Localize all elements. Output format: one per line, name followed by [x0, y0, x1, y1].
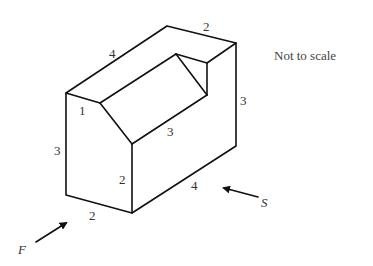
- block-edges: [66, 26, 236, 213]
- dim-notch-slope: 1: [79, 103, 86, 118]
- dim-top-width: 2: [203, 19, 210, 34]
- not-to-scale-note: Not to scale: [274, 48, 336, 63]
- dim-right-height: 3: [240, 93, 247, 108]
- side-view-arrow-icon: [224, 188, 258, 197]
- dim-bottom-width: 2: [89, 208, 96, 223]
- side-view-label: S: [261, 195, 268, 210]
- dim-front-step-height: 2: [119, 172, 126, 187]
- front-view-label: F: [17, 242, 27, 257]
- dim-notch-length: 3: [167, 124, 174, 139]
- dim-bottom-length: 4: [191, 178, 198, 193]
- dim-top-length: 4: [109, 46, 116, 61]
- front-view-arrow-icon: [36, 223, 66, 242]
- isometric-block-diagram: 4 2 3 1 3 3 2 4 2 F S Not to scale: [0, 0, 373, 266]
- dim-left-height: 3: [54, 143, 61, 158]
